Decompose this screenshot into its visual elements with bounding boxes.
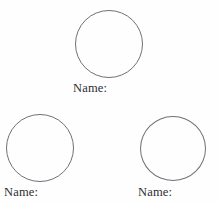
worksheet-canvas: Name: Name: Name: xyxy=(0,0,218,205)
name-label-1: Name: xyxy=(73,82,107,95)
name-label-3: Name: xyxy=(138,186,172,199)
circle-outline-3[interactable] xyxy=(140,116,206,181)
circle-outline-2[interactable] xyxy=(6,114,74,182)
name-label-2: Name: xyxy=(4,186,38,199)
circle-outline-1[interactable] xyxy=(75,10,143,78)
